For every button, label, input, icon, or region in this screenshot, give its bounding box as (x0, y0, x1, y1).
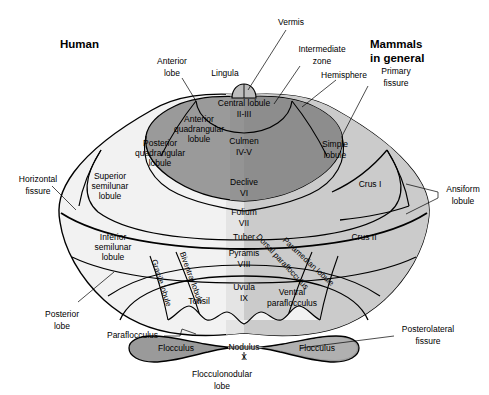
label-anterior-quadrangular-lobule-l2: quadrangular (174, 124, 224, 134)
callout-primary-fissure-l2: fissure (383, 78, 408, 88)
label-crus-ii: Crus II (351, 232, 376, 242)
callout-anterior-lobe-l1: Anterior (157, 56, 187, 66)
callout-posterior-lobe-l2: lobe (54, 321, 70, 331)
label-central-lobule-l1: Central lobule (218, 98, 271, 108)
page-title-mammals-line1: Mammals (370, 38, 422, 50)
label-nodulus-l1: Nodulus (228, 342, 259, 352)
callout-posterolateral-fissure-l1: Posterolateral (402, 324, 455, 334)
callout-paraflocculus: Paraflocculus (107, 330, 158, 340)
label-anterior-quadrangular-lobule-l1: Anterior (184, 114, 214, 124)
callout-ansiform-lobule-l1: Ansiform (446, 184, 480, 194)
label-tuber: Tuber (233, 232, 255, 242)
page-title-mammals-line2: in general (370, 52, 424, 64)
label-superior-semilunar-lobule-l2: semilunar (92, 181, 129, 191)
label-posterior-quadrangular-lobule-l3: lobule (149, 158, 172, 168)
label-declive-l1: Declive (230, 177, 258, 187)
label-folium-l1: Folium (231, 207, 257, 217)
callout-ansiform-lobule-l2: lobule (452, 196, 475, 206)
callout-flocculonodular-lobe-l2: lobe (214, 381, 230, 391)
callout-horizontal-fissure-l1: Horizontal (19, 174, 57, 184)
callout-posterolateral-fissure-l2: fissure (415, 336, 440, 346)
label-inferior-semilunar-lobule-l2: semilunar (95, 242, 132, 252)
page-title-human: Human (60, 38, 99, 50)
label-nodulus-l2: X (241, 352, 247, 362)
callout-primary-fissure-l1: Primary (381, 66, 411, 76)
callout-intermediate-zone-l2: zone (313, 56, 332, 66)
label-declive-l2: VI (240, 188, 248, 198)
label-pyramis-l2: VIII (238, 259, 251, 269)
label-flocculus-left: Flocculus (158, 343, 194, 353)
label-culmen-l1: Culmen (229, 136, 259, 146)
leader-vermis (248, 30, 286, 90)
label-inferior-semilunar-lobule-l3: lobule (102, 252, 125, 262)
callout-anterior-lobe-l2: lobe (164, 68, 180, 78)
label-posterior-quadrangular-lobule-l2: quadrangular (135, 148, 185, 158)
label-ventral-paraflocculus-l1: Ventral (279, 287, 306, 297)
label-crus-i: Crus I (359, 179, 382, 189)
label-simple-lobule-l1: Simple (322, 139, 348, 149)
label-inferior-semilunar-lobule-l1: Inferior (100, 232, 127, 242)
label-folium-l2: VII (239, 218, 249, 228)
cerebellum-diagram: Human Mammals in general Anterior lobe L… (0, 0, 489, 395)
label-uvula-l1: Uvula (233, 282, 255, 292)
label-anterior-quadrangular-lobule-l3: lobule (188, 134, 211, 144)
label-posterior-quadrangular-lobule-l1: Posterior (143, 138, 177, 148)
label-tonsil: Tonsil (188, 296, 210, 306)
callout-horizontal-fissure-l2: fissure (25, 186, 50, 196)
lingula-shape (232, 84, 256, 98)
callout-flocculonodular-lobe-l1: Flocculonodular (192, 369, 252, 379)
label-simple-lobule-l2: lobule (324, 150, 347, 160)
label-central-lobule-l2: II-III (237, 109, 252, 119)
callout-posterior-lobe-l1: Posterior (45, 309, 79, 319)
label-ventral-paraflocculus-l2: paraflocculus (267, 298, 317, 308)
label-uvula-l2: IX (240, 293, 248, 303)
label-superior-semilunar-lobule-l3: lobule (99, 191, 122, 201)
label-flocculus-right: Flocculus (299, 343, 335, 353)
callout-intermediate-zone-l1: Intermediate (298, 44, 346, 54)
callout-lingula: Lingula (211, 68, 239, 78)
callout-vermis: Vermis (278, 17, 304, 27)
label-pyramis-l1: Pyramis (229, 248, 260, 258)
label-culmen-l2: IV-V (236, 147, 252, 157)
callout-hemisphere: Hemisphere (321, 70, 367, 80)
label-superior-semilunar-lobule-l1: Superior (94, 171, 126, 181)
